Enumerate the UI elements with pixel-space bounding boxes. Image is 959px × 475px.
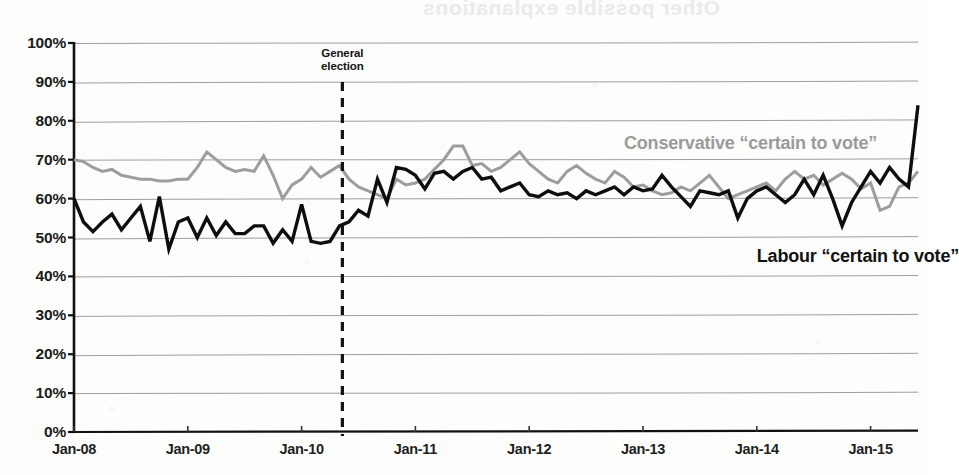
gridline-80% [74, 120, 918, 122]
x-tick-label-jan-11: Jan-11 [394, 441, 437, 457]
gridline-30% [74, 314, 918, 316]
series-line-labour [74, 105, 918, 249]
x-tick-label-jan-12: Jan-12 [507, 441, 551, 457]
annotation-general-election-label: General election [309, 47, 375, 73]
x-tick-label-jan-10: Jan-10 [280, 441, 324, 457]
gridline-100% [74, 42, 918, 43]
series-label-labour: Labour “certain to vote” [757, 246, 959, 267]
x-tick-label-jan-08: Jan-08 [52, 441, 96, 457]
x-tick-label-jan-09: Jan-09 [166, 441, 210, 457]
series-line-conservative [74, 146, 918, 210]
x-tick-label-jan-15: Jan-15 [849, 441, 893, 457]
gridline-20% [74, 353, 918, 355]
gridline-40% [74, 276, 918, 277]
gridline-90% [74, 81, 918, 83]
x-axis-line [72, 431, 918, 432]
x-tick-label-jan-13: Jan-13 [621, 441, 665, 457]
x-tick-label-jan-14: Jan-14 [735, 441, 779, 457]
gridline-50% [74, 237, 918, 239]
series-label-conservative: Conservative “certain to vote” [624, 133, 877, 154]
gridline-10% [74, 392, 918, 393]
